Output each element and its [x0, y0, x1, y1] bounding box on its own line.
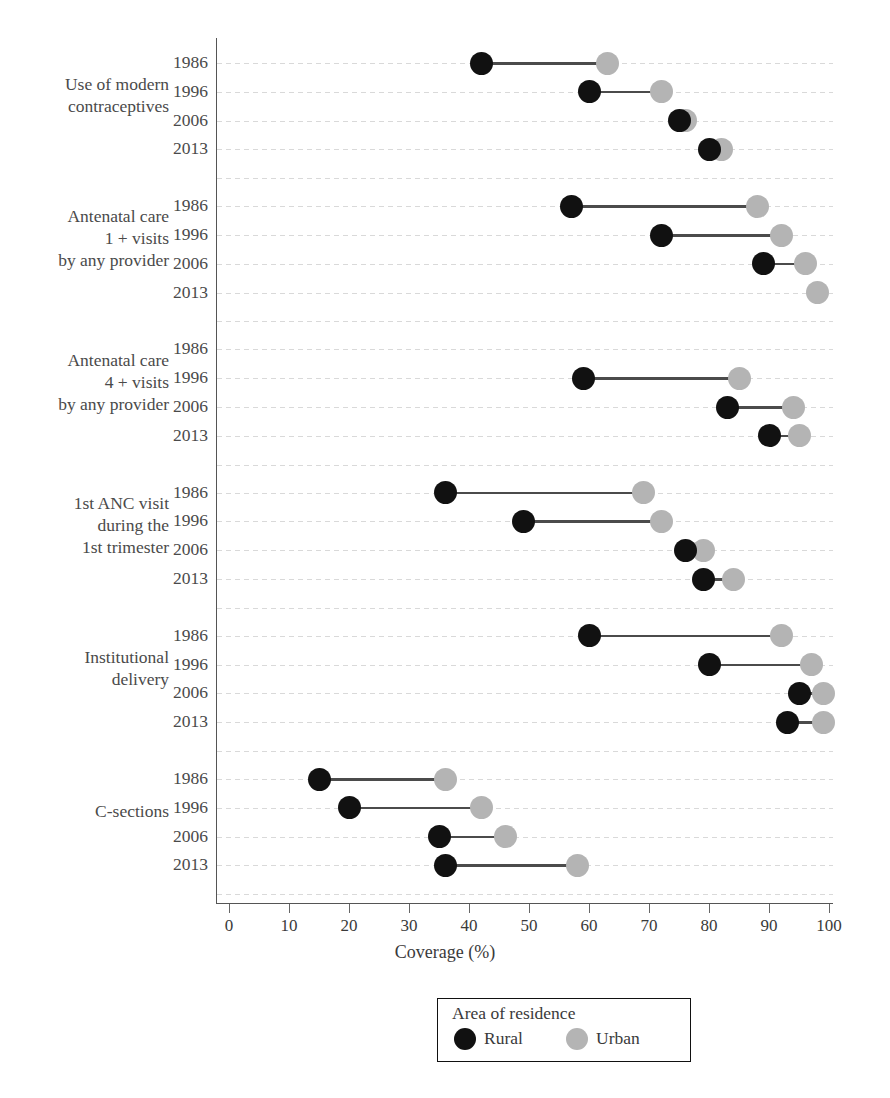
y-axis-line [216, 38, 217, 904]
category-label-line: contraceptives [0, 95, 169, 117]
data-point-urban [566, 854, 589, 877]
gridline [217, 149, 833, 150]
gridline-separator [217, 178, 833, 179]
legend-label-rural: Rural [484, 1028, 523, 1049]
x-tick-label-90: 90 [746, 916, 792, 936]
x-tick-20 [349, 904, 350, 913]
connector-line [481, 62, 607, 65]
x-tick-70 [649, 904, 650, 913]
category-label: C-sections [0, 800, 169, 822]
dumbbell-chart: 1986199620062013198619962006201319861996… [0, 0, 890, 1098]
data-point-rural [788, 682, 811, 705]
data-point-urban [722, 568, 745, 591]
year-label-2013: 2013 [128, 282, 208, 303]
category-label-line: Antenatal care [0, 349, 169, 371]
x-tick-label-50: 50 [506, 916, 552, 936]
category-label-line: C-sections [0, 800, 169, 822]
year-label-1986: 1986 [128, 625, 208, 646]
gridline [217, 264, 833, 265]
gridline [217, 693, 833, 694]
data-point-urban [434, 768, 457, 791]
data-point-rural [578, 624, 601, 647]
data-point-urban [812, 711, 835, 734]
data-point-rural [716, 396, 739, 419]
data-point-urban [596, 52, 619, 75]
data-point-rural [692, 568, 715, 591]
x-axis-title: Coverage (%) [0, 942, 890, 963]
data-point-urban [746, 195, 769, 218]
category-label-line: 1st trimester [0, 536, 169, 558]
category-label: Antenatal care4 + visitsby any provider [0, 349, 169, 415]
gridline-separator [217, 751, 833, 752]
data-point-rural [338, 796, 361, 819]
gridline [217, 349, 833, 350]
gridline-separator [217, 894, 833, 895]
x-tick-label-10: 10 [266, 916, 312, 936]
category-label: Institutionaldelivery [0, 646, 169, 690]
connector-line [319, 778, 445, 781]
data-point-rural [698, 653, 721, 676]
data-point-rural [674, 539, 697, 562]
x-tick-30 [409, 904, 410, 913]
data-point-urban [812, 682, 835, 705]
data-point-rural [434, 481, 457, 504]
data-point-urban [794, 252, 817, 275]
x-tick-label-70: 70 [626, 916, 672, 936]
category-label-line: 1st ANC visit [0, 492, 169, 514]
x-tick-60 [589, 904, 590, 913]
category-label-line: Antenatal care [0, 205, 169, 227]
x-tick-50 [529, 904, 530, 913]
data-point-urban [788, 424, 811, 447]
category-label-line: 1 + visits [0, 227, 169, 249]
connector-line [523, 520, 661, 523]
x-tick-40 [469, 904, 470, 913]
year-label-1986: 1986 [128, 768, 208, 789]
page-caption-partial [0, 1082, 890, 1098]
data-point-urban [494, 825, 517, 848]
legend-swatch-urban [566, 1028, 588, 1050]
x-axis-line [216, 903, 833, 904]
x-tick-label-0: 0 [206, 916, 252, 936]
data-point-rural [752, 252, 775, 275]
connector-line [445, 864, 577, 867]
x-tick-label-20: 20 [326, 916, 372, 936]
connector-line [589, 635, 781, 638]
data-point-rural [308, 768, 331, 791]
connector-line [571, 205, 757, 208]
gridline [217, 121, 833, 122]
year-label-1986: 1986 [128, 52, 208, 73]
x-tick-label-60: 60 [566, 916, 612, 936]
data-point-urban [800, 653, 823, 676]
legend: Area of residence Rural Urban [437, 998, 691, 1062]
data-point-rural [428, 825, 451, 848]
data-point-urban [650, 510, 673, 533]
x-tick-0 [229, 904, 230, 913]
legend-title: Area of residence [452, 1003, 575, 1024]
data-point-rural [572, 367, 595, 390]
year-label-2013: 2013 [128, 138, 208, 159]
data-point-rural [512, 510, 535, 533]
year-label-2013: 2013 [128, 568, 208, 589]
data-point-rural [578, 80, 601, 103]
year-label-2013: 2013 [128, 711, 208, 732]
category-label-line: during the [0, 514, 169, 536]
legend-label-urban: Urban [596, 1028, 640, 1049]
data-point-urban [650, 80, 673, 103]
x-tick-80 [709, 904, 710, 913]
gridline [217, 92, 833, 93]
gridline-separator [217, 465, 833, 466]
category-label-line: 4 + visits [0, 371, 169, 393]
x-tick-90 [769, 904, 770, 913]
connector-line [349, 807, 481, 810]
gridline [217, 436, 833, 437]
x-tick-label-100: 100 [806, 916, 852, 936]
category-label-line: delivery [0, 668, 169, 690]
data-point-urban [728, 367, 751, 390]
data-point-urban [632, 481, 655, 504]
gridline [217, 808, 833, 809]
gridline [217, 550, 833, 551]
data-point-rural [470, 52, 493, 75]
data-point-rural [758, 424, 781, 447]
gridline-separator [217, 321, 833, 322]
x-tick-10 [289, 904, 290, 913]
